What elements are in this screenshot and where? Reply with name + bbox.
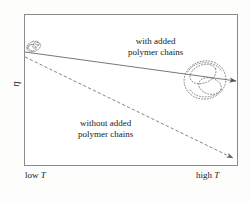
x-axis-label-low-prefix: low <box>25 170 41 180</box>
annotation-with-line-1: with added <box>128 36 183 47</box>
x-axis-label-high-variable: T <box>214 170 219 180</box>
x-axis-label-low: low T <box>25 170 46 181</box>
x-axis-label-low-variable: T <box>41 170 46 180</box>
annotation-without-line-1: without added <box>78 118 133 129</box>
annotation-without-added-polymer-chains: without added polymer chains <box>78 118 133 139</box>
annotation-with-added-polymer-chains: with added polymer chains <box>128 36 183 57</box>
annotation-with-line-2: polymer chains <box>128 47 183 58</box>
y-axis-label: η <box>9 74 21 94</box>
annotation-without-line-2: polymer chains <box>78 129 133 140</box>
x-axis-label-high: high T <box>196 170 219 181</box>
viscosity-temperature-figure: η low T high T with added polymer chains… <box>0 0 250 202</box>
x-axis-label-high-prefix: high <box>196 170 214 180</box>
